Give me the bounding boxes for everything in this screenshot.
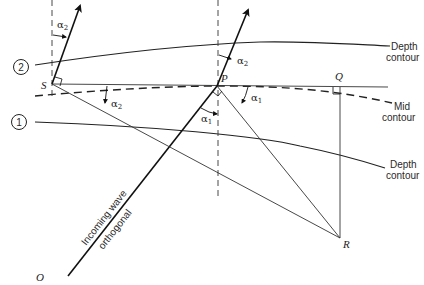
right-angle-S — [55, 77, 62, 86]
label-depth-contour-bottom: Depth contour — [386, 159, 420, 181]
refracted-orthogonal-S — [52, 6, 80, 84]
svg-text:contour: contour — [386, 170, 420, 181]
svg-text:2: 2 — [18, 62, 24, 73]
depth-contour-top — [35, 42, 390, 65]
svg-text:1: 1 — [16, 117, 22, 128]
svg-text:contour: contour — [382, 112, 416, 123]
point-label-P: P — [220, 72, 228, 84]
label-incoming-wave-orthogonal: Incoming wave orthogonal — [79, 188, 134, 252]
angle-label-alpha1-P-right: α1 — [251, 92, 262, 105]
contour-marker-1: 1 — [12, 115, 27, 130]
label-mid-contour: Mid contour — [382, 101, 416, 123]
refraction-diagram: 2 1 S P Q R O α2 α2 α2 α1 α1 Depth conto… — [0, 0, 424, 285]
angle-label-alpha2-S-low: α2 — [111, 98, 122, 111]
point-label-O: O — [36, 271, 44, 283]
angle-arc-alpha1-P-right — [242, 87, 248, 103]
svg-text:Mid: Mid — [394, 101, 410, 112]
point-label-R: R — [342, 238, 350, 250]
svg-text:contour: contour — [386, 52, 420, 63]
angle-arc-alpha2-S-low — [105, 86, 107, 103]
contour-marker-2: 2 — [14, 60, 29, 75]
mid-contour — [35, 86, 392, 103]
angle-label-alpha2-S-top: α2 — [57, 19, 68, 32]
angle-label-alpha1-P-left: α1 — [201, 113, 212, 126]
point-label-Q: Q — [335, 70, 343, 82]
line-SR — [52, 84, 340, 238]
point-label-S: S — [41, 79, 47, 91]
angle-label-alpha2-P: α2 — [237, 55, 248, 68]
svg-text:Depth: Depth — [390, 159, 417, 170]
svg-text:Depth: Depth — [391, 41, 418, 52]
depth-contour-bottom — [35, 122, 385, 168]
line-PR — [217, 86, 340, 238]
label-depth-contour-top: Depth contour — [386, 41, 420, 63]
right-angle-P — [213, 91, 222, 96]
incoming-orthogonal — [68, 86, 217, 276]
angle-arc-alpha2-S-top — [53, 35, 66, 37]
